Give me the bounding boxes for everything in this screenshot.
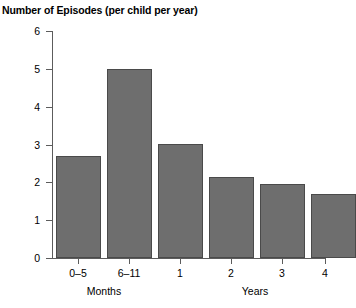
x-axis-tick-label: 2 (206, 268, 256, 279)
bar-4-years (311, 194, 356, 258)
x-axis-tick-label: 1 (155, 268, 205, 279)
x-axis-group-label-years: Years (229, 286, 281, 297)
x-axis-tick (325, 258, 326, 264)
x-axis-tick (282, 258, 283, 264)
x-axis-tick-label: 0–5 (53, 268, 103, 279)
bar-3-years (260, 184, 305, 258)
y-axis-tick-label: 3 (0, 140, 40, 150)
y-axis-line (52, 31, 53, 259)
y-axis-tick (46, 182, 52, 183)
y-axis-tick-label: 1 (0, 215, 40, 225)
x-axis-tick (180, 258, 181, 264)
x-axis-tick-label: 6–11 (104, 268, 154, 279)
y-axis-tick (46, 145, 52, 146)
x-axis-group-label-months: Months (78, 286, 130, 297)
x-axis-line (52, 258, 326, 259)
x-axis-tick (129, 258, 130, 264)
y-axis-tick-label: 4 (0, 102, 40, 112)
y-axis-tick-label: 0 (0, 253, 40, 263)
y-axis-tick-label: 5 (0, 64, 40, 74)
y-axis-tick-label: 2 (0, 177, 40, 187)
y-axis-tick (46, 31, 52, 32)
y-axis-tick (46, 107, 52, 108)
y-axis-tick (46, 258, 52, 259)
y-axis-tick-label: 6 (0, 26, 40, 36)
y-axis-tick (46, 69, 52, 70)
y-axis-tick (46, 220, 52, 221)
bar-2-years (209, 177, 254, 258)
x-axis-tick (78, 258, 79, 264)
x-axis-tick-label: 4 (300, 268, 350, 279)
x-axis-tick (231, 258, 232, 264)
bar-6-11-months (107, 69, 152, 258)
bar-0-5-months (56, 156, 101, 258)
bar-1-year (158, 144, 203, 258)
